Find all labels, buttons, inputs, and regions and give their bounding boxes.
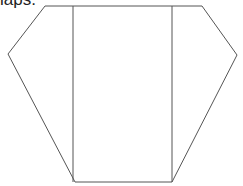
net-outline [8,6,237,182]
box-net-diagram [0,0,243,186]
